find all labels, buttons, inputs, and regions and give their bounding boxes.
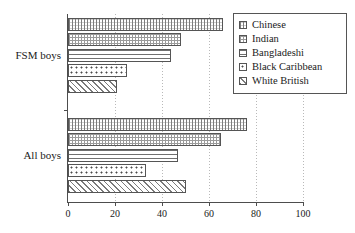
legend-item-chinese[interactable]: Chinese	[239, 18, 341, 32]
x-tick-label: 0	[66, 208, 71, 219]
tick-mark-40	[162, 202, 163, 206]
bar-black-caribbean-fsm-boys	[68, 64, 127, 77]
gridline-60	[209, 14, 210, 202]
x-tick-label: 100	[296, 208, 311, 219]
legend-item-label: Chinese	[252, 20, 286, 31]
legend-swatch-icon	[239, 35, 247, 43]
tick-mark-60	[209, 202, 210, 206]
bar-white-british-fsm-boys	[68, 80, 117, 93]
legend-swatch-icon	[239, 77, 247, 85]
group-separator-tick	[64, 110, 68, 111]
legend-item-label: Indian	[252, 34, 279, 45]
legend-item-label: Black Caribbean	[252, 62, 322, 73]
x-tick-label: 60	[204, 208, 214, 219]
legend: ChineseIndianBangladeshiBlack CaribbeanW…	[233, 13, 347, 94]
x-axis-line	[67, 202, 303, 203]
legend-item-indian[interactable]: Indian	[239, 32, 341, 46]
legend-swatch-icon	[239, 49, 247, 57]
legend-item-black-caribbean[interactable]: Black Caribbean	[239, 60, 341, 74]
bar-indian-all-boys	[68, 133, 221, 146]
bar-chinese-fsm-boys	[68, 18, 223, 31]
bar-chinese-all-boys	[68, 118, 247, 131]
bar-black-caribbean-all-boys	[68, 164, 146, 177]
category-label-all-boys: All boys	[23, 149, 68, 161]
legend-item-label: White British	[252, 76, 309, 87]
bar-chart: 020406080100 FSM boysAll boys ChineseInd…	[0, 0, 355, 233]
legend-swatch-icon	[239, 21, 247, 29]
x-tick-label: 80	[251, 208, 261, 219]
tick-mark-100	[303, 202, 304, 206]
legend-item-bangladeshi[interactable]: Bangladeshi	[239, 46, 341, 60]
legend-item-label: Bangladeshi	[252, 48, 304, 59]
bar-indian-fsm-boys	[68, 33, 181, 46]
category-label-fsm-boys: FSM boys	[15, 49, 68, 61]
x-tick-label: 40	[157, 208, 167, 219]
bar-bangladeshi-fsm-boys	[68, 49, 171, 62]
bar-bangladeshi-all-boys	[68, 149, 178, 162]
legend-swatch-icon	[239, 63, 247, 71]
tick-mark-20	[115, 202, 116, 206]
tick-mark-0	[68, 202, 69, 206]
x-tick-label: 20	[110, 208, 120, 219]
bar-white-british-all-boys	[68, 180, 186, 193]
legend-item-white-british[interactable]: White British	[239, 74, 341, 88]
tick-mark-80	[256, 202, 257, 206]
